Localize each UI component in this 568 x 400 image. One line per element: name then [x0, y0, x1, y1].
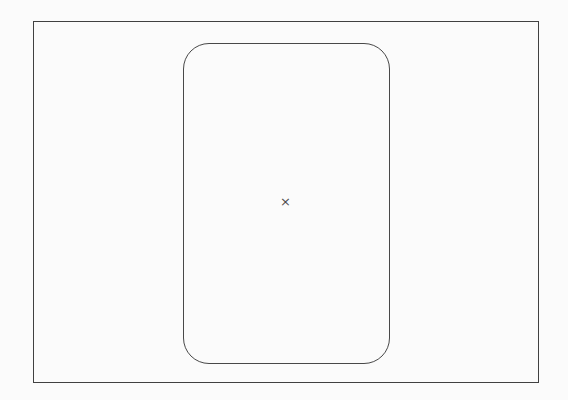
- outer-rectangle: ×: [33, 21, 539, 383]
- center-cross-mark: ×: [280, 195, 291, 208]
- rounded-rectangle: ×: [183, 43, 390, 364]
- figure-canvas: ×: [0, 0, 568, 400]
